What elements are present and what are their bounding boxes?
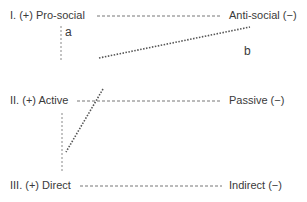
annotation-b: b <box>244 45 251 58</box>
diagonal-lower <box>66 89 103 152</box>
diagonal-upper <box>99 27 250 58</box>
annotation-a: a <box>65 26 72 39</box>
label-antisocial: Anti-social (−) <box>229 9 297 22</box>
label-indirect: Indirect (−) <box>229 179 282 192</box>
label-active: II. (+) Active <box>10 94 68 107</box>
label-passive: Passive (−) <box>229 94 284 107</box>
label-prosocial: I. (+) Pro-social <box>10 9 85 22</box>
label-direct: III. (+) Direct <box>10 179 71 192</box>
